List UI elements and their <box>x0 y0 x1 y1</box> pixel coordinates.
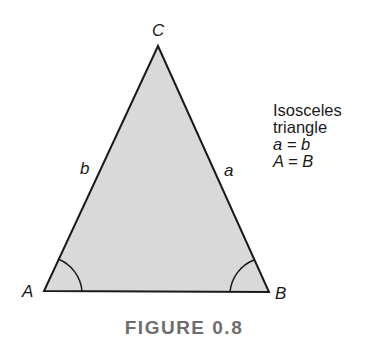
triangle-annotation: Isosceles triangle a = b A = B <box>273 102 342 170</box>
vertex-label-c: C <box>152 22 164 39</box>
annotation-line-2: triangle <box>273 119 342 136</box>
annotation-line-4: A = B <box>273 153 342 170</box>
isosceles-triangle-diagram <box>0 0 368 357</box>
vertex-label-a: A <box>22 283 33 300</box>
side-label-a: a <box>224 162 233 179</box>
vertex-label-b: B <box>275 285 286 302</box>
side-label-b: b <box>80 160 89 177</box>
annotation-line-1: Isosceles <box>273 102 342 119</box>
annotation-line-3: a = b <box>273 136 342 153</box>
triangle-shape <box>44 46 269 292</box>
figure-caption: FIGURE 0.8 <box>0 317 368 339</box>
